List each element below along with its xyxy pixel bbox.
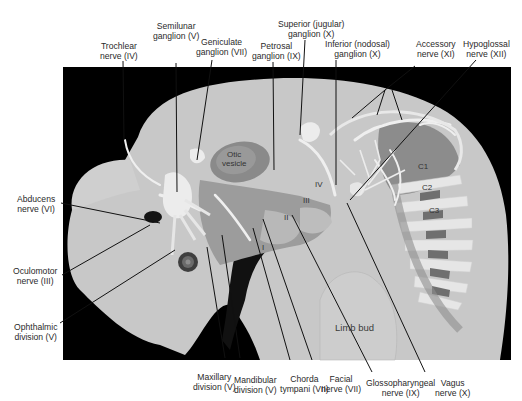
label-superior-jugular-ganglion: Superior (jugular) ganglion (X) xyxy=(278,19,344,39)
label-line: Abducens xyxy=(17,194,55,204)
arch-ii-label: II xyxy=(284,213,288,222)
label-semilunar-ganglion: Semilunar ganglion (V) xyxy=(153,21,199,41)
label-line: nerve (XI) xyxy=(416,49,456,59)
label-inferior-nodosal-ganglion: Inferior (nodosal) ganglion (X) xyxy=(325,39,390,59)
label-line: Inferior (nodosal) xyxy=(325,39,390,49)
otic-label-line2: vesicle xyxy=(222,159,246,168)
c3-label: C3 xyxy=(429,206,439,215)
label-line: ganglion (V) xyxy=(153,31,199,41)
label-oculomotor-nerve: Oculomotor nerve (III) xyxy=(13,266,57,286)
label-line: Hypoglossal xyxy=(463,39,510,49)
c1-label: C1 xyxy=(418,162,428,171)
arch-iii-label: III xyxy=(303,196,310,205)
label-line: Geniculate xyxy=(196,37,247,47)
label-line: Oculomotor xyxy=(13,266,57,276)
label-line: nerve (VI) xyxy=(17,204,55,214)
label-line: Vagus xyxy=(435,378,470,388)
label-line: division (V) xyxy=(14,332,57,342)
otic-vesicle-label: Otic vesicle xyxy=(222,150,246,168)
label-line: nerve (VII) xyxy=(321,384,361,394)
label-facial-nerve: Facial nerve (VII) xyxy=(321,374,361,394)
label-maxillary-division: Maxillary division (V) xyxy=(193,372,236,392)
arch-i-label: I xyxy=(262,243,264,252)
label-line: Accessory xyxy=(416,39,456,49)
label-line: Glossopharyngeal xyxy=(366,378,435,388)
label-line: ganglion (X) xyxy=(278,29,344,39)
label-line: Ophthalmic xyxy=(14,322,57,332)
label-trochlear-nerve: Trochlear nerve (IV) xyxy=(100,41,138,61)
label-line: Facial xyxy=(321,374,361,384)
label-accessory-nerve: Accessory nerve (XI) xyxy=(416,39,456,59)
label-geniculate-ganglion: Geniculate ganglion (VII) xyxy=(196,37,247,57)
label-line: nerve (IV) xyxy=(100,51,138,61)
label-line: Superior (jugular) xyxy=(278,19,344,29)
label-line: Mandibular xyxy=(234,375,277,385)
limb-bud-label: Limb bud xyxy=(335,322,374,333)
label-petrosal-ganglion: Petrosal ganglion (IX) xyxy=(252,41,301,61)
label-mandibular-division: Mandibular division (V) xyxy=(234,375,277,395)
arch-iv-label: IV xyxy=(315,180,323,189)
label-line: Maxillary xyxy=(193,372,236,382)
label-hypoglossal-nerve: Hypoglossal nerve (XII) xyxy=(463,39,510,59)
label-line: nerve (X) xyxy=(435,388,470,398)
label-line: nerve (IX) xyxy=(366,388,435,398)
label-ophthalmic-division: Ophthalmic division (V) xyxy=(14,322,57,342)
label-line: nerve (III) xyxy=(13,276,57,286)
eye-pupil xyxy=(186,260,191,265)
label-line: Petrosal xyxy=(252,41,301,51)
c2-label: C2 xyxy=(422,183,432,192)
otic-label-line1: Otic xyxy=(222,150,246,159)
label-line: nerve (XII) xyxy=(463,49,510,59)
label-line: division (V) xyxy=(234,385,277,395)
label-line: ganglion (X) xyxy=(325,49,390,59)
label-line: ganglion (IX) xyxy=(252,51,301,61)
label-line: Semilunar xyxy=(153,21,199,31)
label-line: ganglion (VII) xyxy=(196,47,247,57)
label-line: Trochlear xyxy=(100,41,138,51)
label-vagus-nerve: Vagus nerve (X) xyxy=(435,378,470,398)
label-glossopharyngeal-nerve: Glossopharyngeal nerve (IX) xyxy=(366,378,435,398)
label-abducens-nerve: Abducens nerve (VI) xyxy=(17,194,55,214)
label-line: division (V) xyxy=(193,382,236,392)
